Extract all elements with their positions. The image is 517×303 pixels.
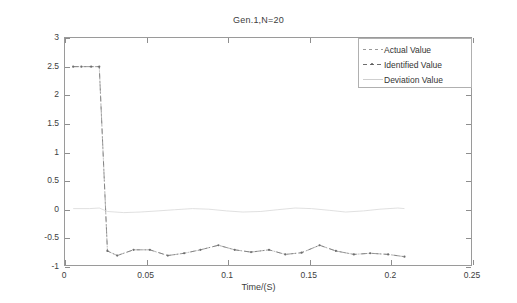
- data-point-marker: [250, 251, 252, 253]
- data-point-marker: [106, 250, 108, 252]
- x-tick-label: 0.2: [370, 270, 410, 280]
- y-tick-label: 0.5: [19, 175, 59, 185]
- y-tick-mark: [65, 95, 70, 96]
- data-point-marker: [98, 66, 100, 68]
- series-line: [73, 67, 404, 257]
- y-tick-mark: [466, 181, 471, 182]
- data-point-marker: [353, 253, 355, 255]
- figure: Gen.1,N=20 Pe1/(p.u.) Time/(S) -1-0.500.…: [0, 0, 517, 303]
- data-point-marker: [116, 254, 118, 256]
- y-tick-mark: [466, 124, 471, 125]
- x-axis-title: Time/(S): [0, 282, 517, 292]
- data-point-marker: [217, 244, 219, 246]
- y-tick-label: 3: [19, 32, 59, 42]
- x-tick-label: 0.15: [289, 270, 329, 280]
- x-tick-label: 0.05: [126, 270, 166, 280]
- y-tick-mark: [65, 210, 70, 211]
- data-point-marker: [149, 249, 151, 251]
- y-tick-label: 0: [19, 204, 59, 214]
- y-tick-label: 1: [19, 147, 59, 157]
- legend-label-identified: Identified Value: [384, 60, 442, 70]
- data-point-marker: [132, 249, 134, 251]
- x-tick-mark: [310, 260, 311, 265]
- legend-item: Deviation Value: [359, 72, 471, 87]
- y-tick-mark: [466, 95, 471, 96]
- y-tick-mark: [65, 181, 70, 182]
- y-tick-mark: [65, 238, 70, 239]
- legend-item: Identified Value: [359, 57, 471, 72]
- legend-swatch-identified: [362, 59, 384, 70]
- data-point-marker: [284, 253, 286, 255]
- data-point-marker: [183, 252, 185, 254]
- data-point-marker: [199, 249, 201, 251]
- y-tick-label: -0.5: [19, 232, 59, 242]
- legend-swatch-actual: [362, 44, 384, 55]
- data-point-marker: [80, 66, 82, 68]
- x-tick-mark: [228, 260, 229, 265]
- y-tick-mark: [65, 67, 70, 68]
- legend-label-deviation: Deviation Value: [384, 75, 443, 85]
- y-tick-mark: [466, 238, 471, 239]
- data-point-marker: [301, 252, 303, 254]
- legend-label-actual: Actual Value: [384, 45, 431, 55]
- data-point-marker: [318, 244, 320, 246]
- x-tick-mark: [310, 38, 311, 43]
- y-tick-label: 2: [19, 89, 59, 99]
- legend-swatch-deviation: [362, 74, 384, 85]
- data-point-marker: [90, 66, 92, 68]
- series-line: [73, 67, 404, 257]
- y-tick-mark: [65, 267, 70, 268]
- y-tick-mark: [466, 153, 471, 154]
- x-tick-mark: [228, 38, 229, 43]
- data-point-marker: [369, 252, 371, 254]
- y-tick-label: 1.5: [19, 118, 59, 128]
- data-point-marker: [403, 256, 405, 258]
- x-tick-mark: [391, 260, 392, 265]
- data-point-marker: [335, 250, 337, 252]
- x-tick-label: 0.25: [452, 270, 492, 280]
- legend-item: Actual Value: [359, 42, 471, 57]
- data-point-marker: [167, 254, 169, 256]
- x-tick-mark: [473, 260, 474, 265]
- y-tick-mark: [65, 153, 70, 154]
- x-tick-mark: [65, 38, 66, 43]
- y-tick-mark: [466, 210, 471, 211]
- x-tick-mark: [473, 38, 474, 43]
- chart-legend: Actual Value Identified Value Deviation …: [358, 38, 472, 88]
- x-tick-mark: [147, 260, 148, 265]
- x-tick-mark: [65, 260, 66, 265]
- data-point-marker: [72, 66, 74, 68]
- data-point-marker: [234, 249, 236, 251]
- x-tick-mark: [147, 38, 148, 43]
- chart-title: Gen.1,N=20: [0, 15, 517, 25]
- data-point-marker: [268, 249, 270, 251]
- series-line: [73, 208, 404, 213]
- data-point-marker: [387, 253, 389, 255]
- y-tick-mark: [466, 267, 471, 268]
- x-tick-label: 0.1: [207, 270, 247, 280]
- y-tick-label: 2.5: [19, 61, 59, 71]
- x-tick-label: 0: [44, 270, 84, 280]
- y-tick-mark: [65, 124, 70, 125]
